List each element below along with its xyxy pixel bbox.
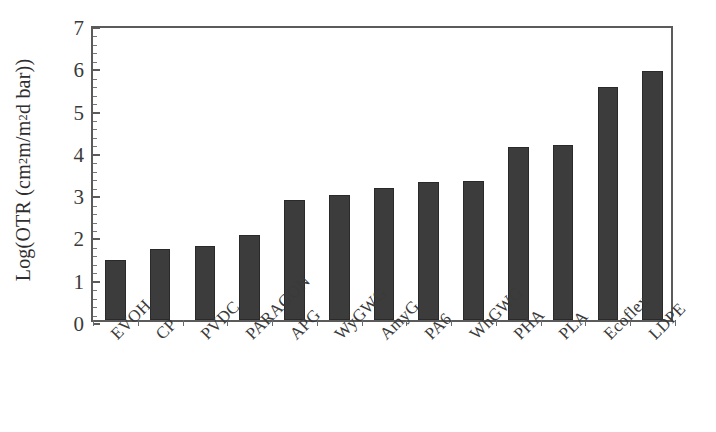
y-tick-label: 0: [74, 314, 85, 335]
bar-evoh: [105, 260, 126, 320]
y-tick-label: 6: [74, 60, 85, 81]
x-tick-mark: [93, 320, 94, 326]
y-axis-title-prefix: Log(OTR (cm: [12, 164, 35, 281]
y-axis-title-suffix: d bar)): [12, 59, 35, 114]
bars-group: [93, 28, 671, 320]
bar-paragon: [239, 235, 260, 320]
x-tick-mark: [183, 320, 184, 326]
bar-pa6: [418, 182, 439, 320]
bar-wygwg: [329, 195, 350, 320]
y-tick-mark: [93, 323, 100, 325]
y-axis-title-mid: m/m: [12, 120, 35, 157]
y-tick-label: 2: [74, 229, 85, 250]
y-tick-label: 5: [74, 102, 85, 123]
bar-pla: [553, 145, 574, 320]
bar-pvdc: [195, 246, 216, 320]
y-tick-label: 1: [74, 271, 85, 292]
bar-ldpe: [642, 71, 663, 320]
x-axis-category-labels: EVOHCPPVDCPARAGONAPGWyGWGAmyGPA6WhGWGPHA…: [91, 330, 673, 430]
y-axis-title: Log(OTR (cm2 m/m2 d bar)): [0, 0, 46, 340]
bar-ecoflex: [598, 87, 619, 320]
y-tick-label: 4: [74, 144, 85, 165]
y-tick-label: 3: [74, 187, 85, 208]
y-tick-label: 7: [74, 18, 85, 39]
plot-area: 01234567: [91, 26, 673, 322]
bar-chart-figure: Log(OTR (cm2 m/m2 d bar)) 01234567 EVOHC…: [0, 0, 716, 432]
bar-whgwg: [463, 181, 484, 320]
